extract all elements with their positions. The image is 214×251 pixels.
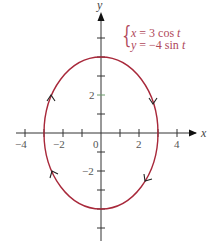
equation-y: y = −4 sin t: [131, 38, 185, 53]
tick-label-x-minus2: −2: [53, 138, 65, 150]
tick-label-y-minus2: −2: [82, 165, 94, 177]
x-axis-label: x: [200, 126, 207, 140]
tick-label-x-minus4: −4: [15, 138, 27, 150]
y-axis-arrow-icon: [98, 12, 105, 21]
tick-label-x-0: 0: [93, 138, 99, 150]
tick-label-y-2: 2: [89, 89, 95, 101]
arrow-up-icon: [47, 95, 55, 101]
tick-label-x-2: 2: [136, 138, 142, 150]
x-axis-arrow-icon: [189, 130, 197, 137]
tick-label-x-4: 4: [174, 138, 180, 150]
y-axis-label: y: [96, 0, 103, 12]
